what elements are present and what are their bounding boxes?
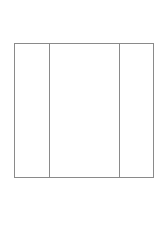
three-column-frame — [14, 43, 154, 178]
column-divider-left — [49, 44, 50, 177]
column-divider-right — [119, 44, 120, 177]
